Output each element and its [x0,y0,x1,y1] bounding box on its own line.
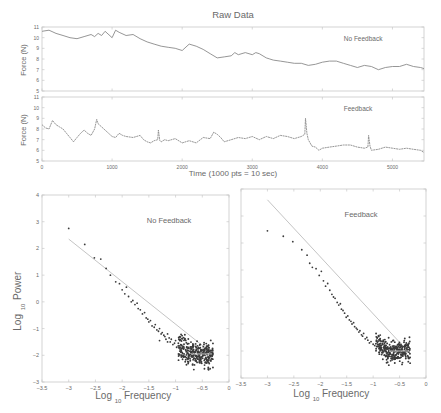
spectrum-no-feedback-axes: −3−2−101234−3.5−3−2.5−2−1.5−1−0.50No Fee… [33,192,231,391]
series-annotation: No Feedback [147,216,192,225]
figure-canvas: Raw Data 567891011No Feedback 5678910110… [0,0,441,413]
y-tick-label: 3 [36,219,39,225]
power-ylabel: Log 10 Power [12,271,26,331]
x-tick-label: 0 [227,385,230,391]
y-tick-label: 8 [36,56,39,62]
y-tick-label: 7 [36,137,39,143]
y-tick-label: 6 [36,147,39,153]
x-tick-label: 1000 [107,164,118,170]
spectrum-feedback-axes: −3.5−3−2.5−2−1.5−1−0.50Feedback [236,189,428,387]
y-tick-label: 10 [33,105,39,111]
y-tick-label: 8 [36,126,39,132]
y-tick-label: 11 [34,24,39,30]
x-tick-label: −1 [370,381,376,387]
y-tick-label: 9 [36,115,39,121]
y-tick-label: 11 [34,94,39,100]
freq-xlabel-right: Log 10 Frequency [293,388,369,402]
y-tick-label: −2 [33,352,39,358]
x-tick-label: 0 [424,381,427,387]
x-tick-label: −1.5 [341,381,352,387]
x-tick-label: 5000 [387,164,398,170]
x-tick-label: 2000 [177,164,188,170]
x-tick-label: −3 [264,381,270,387]
x-tick-label: −3.5 [236,381,247,387]
y-tick-label: 9 [36,45,39,51]
force-trace [42,118,424,152]
y-tick-label: 5 [36,158,39,164]
y-tick-label: 4 [36,192,39,198]
x-tick-label: −2 [317,381,323,387]
raw-feedback-axes: 567891011010002000300040005000Feedback [33,94,424,170]
scatter-points [68,227,214,370]
power-ylabel-sub: 10 [20,303,26,310]
freq-xlabel-left-sub: 10 [115,398,122,404]
raw-no-feedback-axes: 567891011No Feedback [33,24,424,94]
freq-xlabel-left-tail: Frequency [124,390,171,401]
freq-xlabel-left-log: Log [95,390,112,401]
x-tick-label: −3.5 [37,385,48,391]
force-ylabel-top: Force (N) [19,44,28,76]
series-annotation: No Feedback [344,35,383,42]
x-tick-label: −1 [172,385,178,391]
series-annotation: Feedback [344,105,373,112]
y-tick-label: 0 [36,299,39,305]
x-tick-label: 0 [41,164,44,170]
freq-xlabel-right-log: Log [293,388,310,399]
power-ylabel-tail: Power [12,271,23,300]
x-tick-label: −2.5 [288,381,299,387]
series-annotation: Feedback [345,210,378,219]
y-tick-label: 10 [33,35,39,41]
y-tick-label: −1 [33,326,39,332]
freq-xlabel-left: Log 10 Frequency [95,390,171,404]
y-tick-label: 7 [36,67,39,73]
regression-line [267,200,410,354]
freq-xlabel-right-sub: 10 [313,396,320,402]
freq-xlabel-right-tail: Frequency [322,388,369,399]
y-tick-label: 6 [36,77,39,83]
y-tick-label: 2 [36,245,39,251]
regression-line [69,239,213,354]
time-xlabel: Time (1000 pts = 10 sec) [189,169,278,178]
x-tick-label: 4000 [317,164,328,170]
figure-title: Raw Data [212,9,254,20]
x-tick-label: −0.5 [197,385,208,391]
power-ylabel-log: Log [12,314,23,331]
scatter-points [267,230,412,366]
y-tick-label: 1 [36,272,39,278]
x-tick-label: −0.5 [394,381,405,387]
force-ylabel-bottom: Force (N) [19,114,28,146]
x-tick-label: −3 [66,385,72,391]
